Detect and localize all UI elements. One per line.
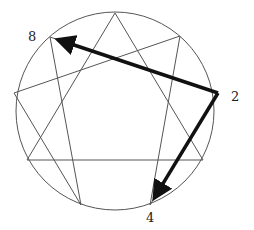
arrow-2-to-8 <box>58 40 218 93</box>
point-label-8: 8 <box>28 30 36 43</box>
line-6-9 <box>27 13 115 160</box>
enneagram-diagram <box>0 0 254 230</box>
enneagram-circle <box>16 12 214 210</box>
line-7-1 <box>14 36 180 93</box>
arrow-2-to-4 <box>154 93 218 198</box>
direction-arrows <box>58 40 218 199</box>
point-label-2: 2 <box>231 90 239 103</box>
point-label-4: 4 <box>146 211 154 224</box>
